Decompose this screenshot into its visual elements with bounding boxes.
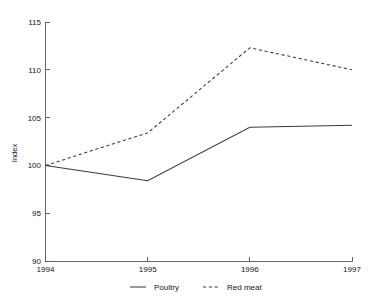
- series-line-red-meat: [46, 48, 353, 166]
- x-tick-label-1994: 1994: [37, 265, 55, 274]
- y-axis-title: Index: [10, 144, 19, 163]
- line-chart: 115 110 105 100 95 90 Index 1994 1995 19…: [0, 0, 372, 305]
- y-tick-label-115: 115: [28, 18, 41, 27]
- x-tick-label-1997: 1997: [343, 265, 361, 274]
- x-tick-label-1995: 1995: [139, 265, 157, 274]
- y-tick-label-105: 105: [28, 114, 42, 123]
- series-line-poultry: [46, 125, 353, 180]
- y-tick-label-95: 95: [32, 209, 41, 218]
- legend-label-red-meat: Red meat: [227, 283, 262, 292]
- x-tick-label-1996: 1996: [241, 265, 259, 274]
- y-tick-label-100: 100: [28, 161, 42, 170]
- legend-label-poultry: Poultry: [154, 283, 179, 292]
- legend: Poultry Red meat: [130, 283, 262, 292]
- y-tick-label-110: 110: [28, 66, 41, 75]
- chart-canvas: 115 110 105 100 95 90 Index 1994 1995 19…: [0, 0, 372, 305]
